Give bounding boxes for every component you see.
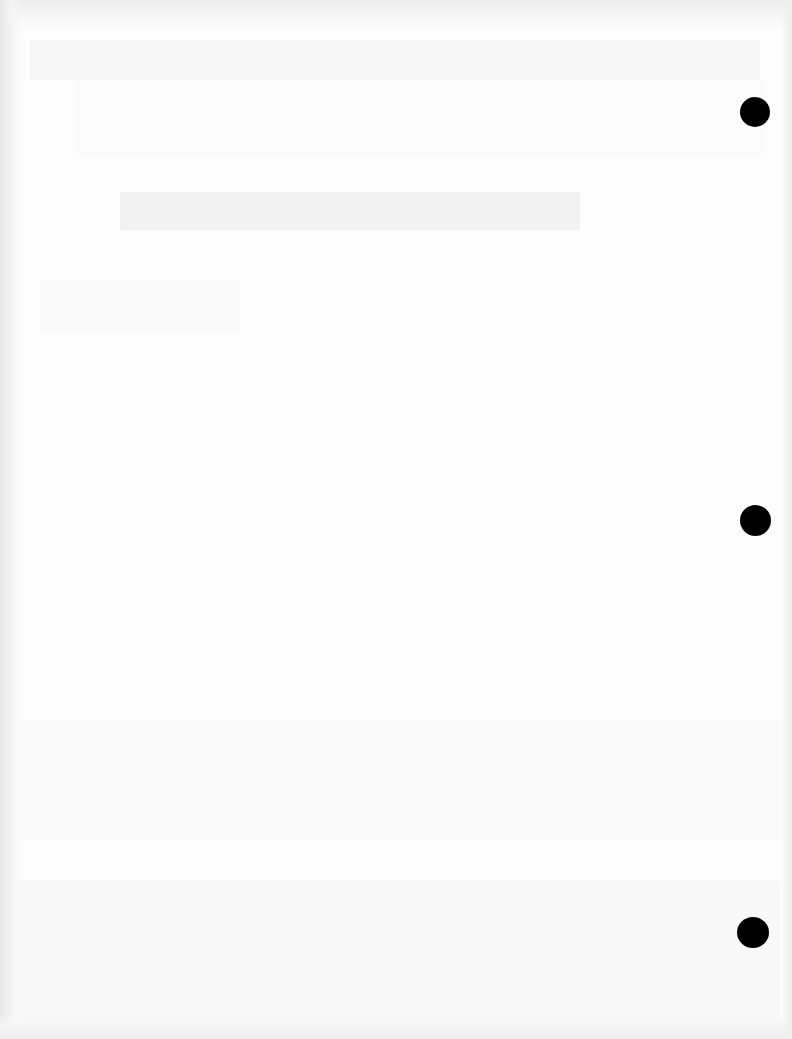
bleed-through-ghost-title bbox=[120, 192, 580, 230]
bleed-through-ghost bbox=[20, 720, 780, 840]
bleed-through-ghost bbox=[75, 80, 765, 155]
bleed-through-ghost bbox=[30, 40, 760, 80]
scan-edge-right bbox=[780, 0, 792, 1039]
punch-hole-icon bbox=[737, 917, 769, 948]
scan-edge-top bbox=[0, 0, 792, 30]
scanned-page bbox=[0, 0, 792, 1039]
bleed-through-ghost bbox=[20, 880, 780, 1030]
bleed-through-ghost bbox=[40, 280, 240, 330]
punch-hole-icon bbox=[740, 505, 771, 536]
punch-hole-icon bbox=[740, 97, 770, 127]
scan-edge-left bbox=[0, 0, 22, 1039]
